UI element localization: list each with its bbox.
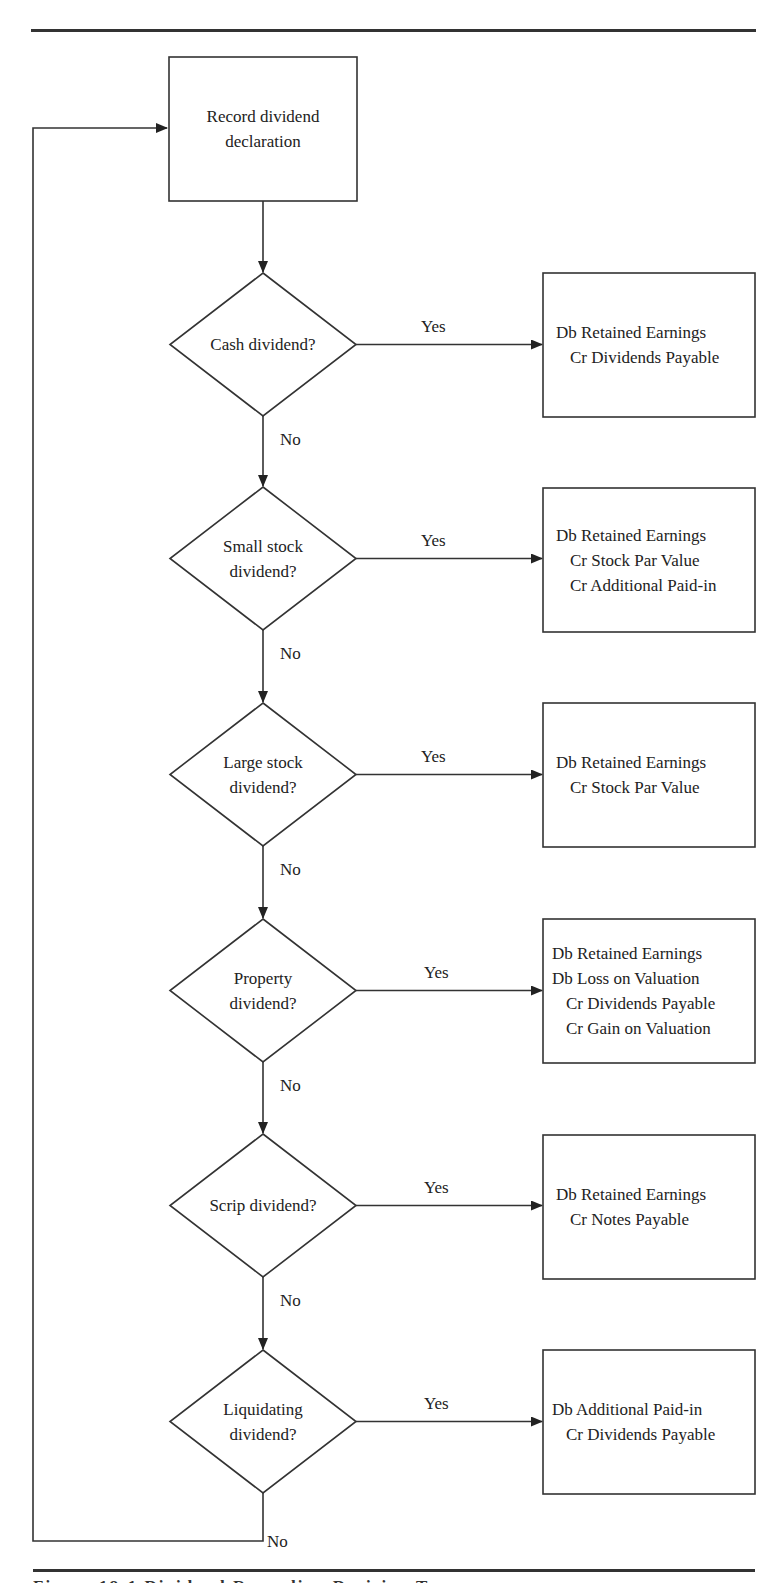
start-label-line-1: Record dividend [207, 104, 320, 129]
no-branch-label: No [280, 1291, 301, 1311]
decision-question-4: Scrip dividend? [170, 1134, 356, 1277]
decision-question-line: dividend? [229, 559, 296, 584]
credit-line: Cr Dividends Payable [552, 991, 755, 1016]
debit-line: Db Retained Earnings [556, 320, 755, 345]
decision-question-line: dividend? [229, 1422, 296, 1447]
credit-line: Cr Dividends Payable [556, 345, 755, 370]
decision-question-line: Large stock [223, 750, 302, 775]
decision-question-3: Propertydividend? [170, 919, 356, 1062]
decision-question-line: dividend? [229, 991, 296, 1016]
debit-line: Db Retained Earnings [556, 1182, 755, 1207]
debit-line: Db Retained Earnings [552, 941, 755, 966]
decision-question-line: Cash dividend? [210, 332, 315, 357]
yes-branch-label: Yes [421, 317, 446, 337]
yes-branch-label: Yes [424, 1394, 449, 1414]
no-branch-label: No [280, 430, 301, 450]
journal-entry-box-0: Db Retained EarningsCr Dividends Payable [556, 273, 755, 417]
no-branch-label: No [280, 644, 301, 664]
debit-line: Db Retained Earnings [556, 750, 755, 775]
no-branch-label: No [280, 860, 301, 880]
credit-line: Cr Gain on Valuation [552, 1016, 755, 1041]
decision-question-0: Cash dividend? [170, 273, 356, 416]
decision-question-line: dividend? [229, 775, 296, 800]
yes-branch-label: Yes [421, 531, 446, 551]
journal-entry-box-3: Db Retained EarningsDb Loss on Valuation… [552, 919, 755, 1063]
no-branch-label: No [267, 1532, 288, 1552]
credit-line: Cr Dividends Payable [552, 1422, 755, 1447]
no-branch-label: No [280, 1076, 301, 1096]
decision-question-line: Scrip dividend? [209, 1193, 316, 1218]
yes-branch-label: Yes [424, 963, 449, 983]
decision-question-line: Property [234, 966, 293, 991]
journal-entry-box-1: Db Retained EarningsCr Stock Par ValueCr… [556, 488, 755, 632]
decision-question-line: Small stock [223, 534, 303, 559]
yes-branch-label: Yes [424, 1178, 449, 1198]
decision-question-2: Large stockdividend? [170, 703, 356, 846]
decision-question-line: Liquidating [223, 1397, 302, 1422]
decision-question-1: Small stockdividend? [170, 487, 356, 630]
credit-line: Cr Stock Par Value [556, 548, 755, 573]
debit-line: Db Loss on Valuation [552, 966, 755, 991]
journal-entry-box-2: Db Retained EarningsCr Stock Par Value [556, 703, 755, 847]
debit-line: Db Retained Earnings [556, 523, 755, 548]
credit-line: Cr Stock Par Value [556, 775, 755, 800]
journal-entry-box-4: Db Retained EarningsCr Notes Payable [556, 1135, 755, 1279]
journal-entry-box-5: Db Additional Paid-inCr Dividends Payabl… [552, 1350, 755, 1494]
credit-line: Cr Additional Paid-in [556, 573, 755, 598]
start-label-line-2: declaration [225, 129, 301, 154]
yes-branch-label: Yes [421, 747, 446, 767]
debit-line: Db Additional Paid-in [552, 1397, 755, 1422]
start-box-record-declaration: Record dividend declaration [169, 57, 357, 201]
credit-line: Cr Notes Payable [556, 1207, 755, 1232]
decision-question-5: Liquidatingdividend? [170, 1350, 356, 1493]
figure-caption: Figure 18-1 Dividend Recording Decision … [33, 1577, 456, 1583]
